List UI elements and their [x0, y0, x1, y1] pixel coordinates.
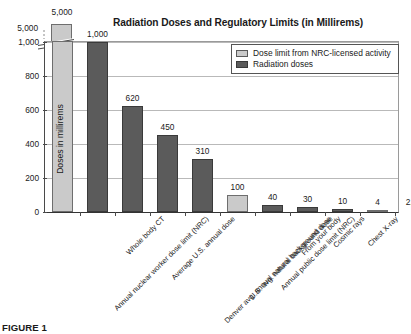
bar-from-your-body [262, 205, 283, 212]
figure-caption: FIGURE 1 [2, 322, 47, 333]
value-label-average-us-annual-dose: 620 [110, 94, 155, 103]
value-label-trans-atlantic-flight: 2.5 [389, 198, 411, 207]
x-axis-category-labels: Annual nuclear worker dose limit (NRC) W… [44, 213, 399, 313]
bar-whole-body-ct [87, 42, 108, 212]
value-label-denver-avg: 450 [145, 123, 190, 132]
legend-label-dose-limit: Dose limit from NRC-licensed activity [253, 48, 391, 58]
y-tick-mark-800 [43, 76, 47, 77]
legend-label-radiation-doses: Radiation doses [253, 59, 313, 69]
bar-safe-drinking-water-limit [367, 210, 388, 212]
y-tick-label-5000: 5,000 [0, 24, 38, 32]
value-label-us-avg-natural: 310 [180, 147, 225, 156]
y-tick-label-200: 200 [1, 174, 39, 182]
y-tick-label-600: 600 [1, 106, 39, 114]
plot-area: 1,000 620 450 310 100 40 30 10 4 2.5 1,0… [44, 41, 399, 213]
x-label-whole-body-ct: Whole body CT [125, 215, 167, 257]
value-label-annual-public-dose-limit: 100 [215, 183, 260, 192]
bar-annual-public-dose-limit [227, 195, 248, 212]
chart-legend: Dose limit from NRC-licensed activity Ra… [231, 44, 399, 74]
value-label-whole-body-ct: 1,000 [75, 30, 120, 39]
y-axis-title: Doses in millirems [55, 80, 65, 198]
y-tick-label-800: 800 [1, 72, 39, 80]
y-tick-mark-1000 [43, 42, 47, 43]
legend-swatch-light-icon [236, 50, 248, 57]
y-tick-mark-600 [43, 110, 47, 111]
y-tick-label-0: 0 [1, 208, 39, 216]
bar-denver-avg-annual-natural-background-dose [157, 135, 178, 212]
y-tick-label-400: 400 [1, 140, 39, 148]
bar-chest-xray [332, 209, 353, 212]
x-label-chest-xray: Chest X-ray [366, 215, 400, 249]
legend-swatch-dark-icon [236, 61, 248, 68]
value-label-overflow: 5,000 [40, 8, 84, 17]
figure-root: Radiation Doses and Regulatory Limits (i… [0, 0, 411, 334]
x-label-annual-nuclear-worker-dose-limit: Annual nuclear worker dose limit (NRC) [113, 215, 211, 313]
bar-us-avg-natural-background-dose [192, 159, 213, 212]
bar-cosmic-rays [297, 207, 318, 212]
legend-entry-radiation-doses: Radiation doses [236, 59, 394, 69]
y-tick-mark-400 [43, 144, 47, 145]
legend-entry-dose-limit: Dose limit from NRC-licensed activity [236, 48, 394, 58]
y-tick-label-1000: 1,000 [1, 38, 39, 46]
y-tick-mark-200 [43, 178, 47, 179]
bar-average-us-annual-dose [122, 106, 143, 212]
